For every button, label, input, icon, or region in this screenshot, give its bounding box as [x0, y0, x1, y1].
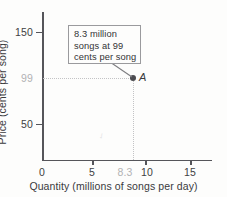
x-axis-tick-label-5: 5 — [89, 166, 95, 178]
y-axis-tick-label-50: 50 — [21, 118, 33, 130]
x-axis-tick-10 — [145, 160, 147, 165]
y-axis-title: Price (cents per song) — [0, 40, 8, 145]
annotation-line-1: 8.3 million — [74, 29, 136, 41]
x-axis-line — [42, 160, 212, 162]
chart-figure: 150 99 50 0 5 8.3 10 15 ✓ A 8.3 million … — [0, 0, 227, 197]
callout-leader-line — [110, 62, 136, 80]
y-axis-tick-label-150: 150 — [15, 26, 33, 38]
x-axis-tick-5 — [92, 160, 94, 165]
x-axis-tick-label-0: 0 — [39, 166, 45, 178]
x-axis-tick-label-8.3: 8.3 — [117, 166, 132, 178]
y-axis-tick-150 — [36, 32, 42, 34]
x-axis-tick-label-15: 15 — [184, 166, 196, 178]
y-axis-line — [42, 12, 44, 161]
x-axis-tick-label-10: 10 — [141, 166, 153, 178]
guide-line-quantity-8.3 — [133, 79, 134, 160]
annotation-line-3: cents per song — [74, 52, 136, 64]
y-axis-tick-label-99: 99 — [21, 72, 33, 84]
x-axis-tick-15 — [190, 160, 192, 165]
scan-artifact: ✓ — [97, 131, 106, 140]
annotation-callout: 8.3 million songs at 99 cents per song — [68, 25, 141, 64]
x-axis-title: Quantity (millions of songs per day) — [0, 180, 227, 192]
annotation-line-2: songs at 99 — [74, 41, 136, 53]
data-point-a-label: A — [139, 71, 146, 83]
y-axis-tick-50 — [36, 124, 42, 126]
